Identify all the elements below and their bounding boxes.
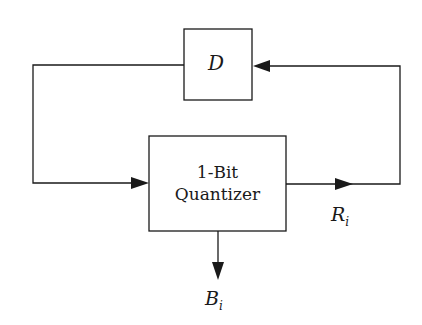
arrow-head-icon bbox=[131, 177, 149, 189]
quantizer-label-line2: Quantizer bbox=[149, 183, 286, 205]
quantizer-output-line bbox=[268, 66, 400, 184]
bit-label-main: B bbox=[205, 287, 219, 309]
residual-label-sub: i bbox=[345, 215, 349, 229]
residual-label: Ri bbox=[331, 203, 349, 233]
arrow-head-icon bbox=[335, 178, 353, 190]
quantizer-label: 1-Bit Quantizer bbox=[149, 161, 286, 205]
arrow-head-icon bbox=[212, 262, 224, 280]
residual-label-main: R bbox=[331, 203, 345, 225]
bit-label: Bi bbox=[205, 287, 223, 317]
delay-label-text: D bbox=[208, 51, 224, 75]
bit-label-sub: i bbox=[219, 299, 223, 313]
quantizer-label-line1: 1-Bit bbox=[149, 161, 286, 183]
delay-label: D bbox=[208, 51, 224, 75]
arrow-head-icon bbox=[253, 60, 270, 72]
